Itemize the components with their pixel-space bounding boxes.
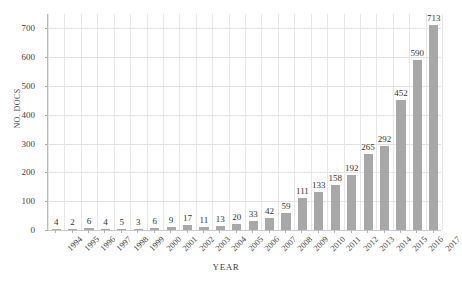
bar[interactable] [380, 146, 389, 230]
bar-group[interactable]: 111 [294, 14, 310, 230]
bar-group[interactable]: 590 [409, 14, 425, 230]
plot-area: 4264536917111320334259111133158192265292… [47, 14, 441, 230]
bar[interactable] [134, 229, 143, 230]
x-axis-tick-mark [384, 230, 385, 233]
x-axis-tick-label: 2014 [394, 234, 413, 253]
bar-group[interactable]: 713 [426, 14, 442, 230]
bar-group[interactable]: 292 [376, 14, 392, 230]
x-axis-tick-mark [72, 230, 73, 233]
bar-group[interactable]: 5 [114, 14, 130, 230]
x-axis-tick-label: 2017 [443, 234, 462, 253]
bar[interactable] [413, 60, 422, 230]
bar-value-label: 9 [169, 216, 174, 225]
x-axis-tick-mark [88, 230, 89, 233]
x-axis-tick-mark [351, 230, 352, 233]
x-axis-tick-mark [416, 230, 417, 233]
x-axis-tick-mark [252, 230, 253, 233]
bar-value-label: 59 [282, 202, 291, 211]
x-axis-tick-mark [433, 230, 434, 233]
x-axis-tick-label: 1994 [65, 234, 84, 253]
bar[interactable] [364, 154, 373, 230]
x-axis-tick-label: 2002 [197, 234, 216, 253]
x-axis-tick-mark [400, 230, 401, 233]
bar-group[interactable]: 192 [344, 14, 360, 230]
bar[interactable] [84, 228, 93, 230]
bar-value-label: 590 [411, 49, 425, 58]
bar[interactable] [249, 221, 258, 231]
bar-value-label: 292 [378, 135, 392, 144]
bar-value-label: 192 [345, 164, 359, 173]
bar-group[interactable]: 20 [229, 14, 245, 230]
bar-value-label: 133 [312, 181, 326, 190]
x-axis-tick-label: 1999 [147, 234, 166, 253]
bar-value-label: 13 [216, 215, 225, 224]
x-axis-tick-label: 2008 [295, 234, 314, 253]
x-axis-tick-mark [104, 230, 105, 233]
x-axis-tick-mark [154, 230, 155, 233]
bar-value-label: 4 [103, 218, 108, 227]
bar[interactable] [347, 175, 356, 230]
bar-value-label: 111 [296, 187, 309, 196]
bar-value-label: 6 [152, 217, 157, 226]
bar-group[interactable]: 265 [360, 14, 376, 230]
bar-group[interactable]: 133 [311, 14, 327, 230]
bars-layer: 4264536917111320334259111133158192265292… [48, 14, 441, 230]
x-axis-tick-label: 2001 [180, 234, 199, 253]
bar-group[interactable]: 6 [147, 14, 163, 230]
bar[interactable] [150, 228, 159, 230]
bar-value-label: 33 [249, 210, 258, 219]
bar-value-label: 20 [232, 213, 241, 222]
x-axis-tick-mark [318, 230, 319, 233]
x-axis-tick-label: 2000 [164, 234, 183, 253]
bar[interactable] [52, 229, 61, 230]
bar-group[interactable]: 4 [48, 14, 64, 230]
y-axis-tick-label: 200 [22, 167, 36, 177]
x-axis-tick-label: 2007 [279, 234, 298, 253]
bar-group[interactable]: 17 [179, 14, 195, 230]
bar-group[interactable]: 2 [64, 14, 80, 230]
bar[interactable] [183, 225, 192, 230]
bar[interactable] [101, 229, 110, 230]
x-axis-tick-mark [219, 230, 220, 233]
bar[interactable] [199, 227, 208, 230]
x-axis-tick-mark [334, 230, 335, 233]
x-axis-tick-label: 2006 [262, 234, 281, 253]
x-axis-tick-label: 1995 [82, 234, 101, 253]
bar-group[interactable]: 9 [163, 14, 179, 230]
x-axis-tick-label: 1996 [98, 234, 117, 253]
bar[interactable] [281, 213, 290, 230]
bar-value-label: 42 [265, 207, 274, 216]
bar-group[interactable]: 59 [278, 14, 294, 230]
bar[interactable] [396, 100, 405, 230]
bar[interactable] [429, 25, 438, 230]
bar-group[interactable]: 4 [97, 14, 113, 230]
x-axis-tick-label: 2012 [361, 234, 380, 253]
horizontal-gridline [48, 230, 441, 231]
bar-value-label: 5 [120, 218, 125, 227]
bar[interactable] [298, 198, 307, 230]
bar-group[interactable]: 11 [196, 14, 212, 230]
x-axis-tick-label: 2005 [246, 234, 265, 253]
bar-group[interactable]: 158 [327, 14, 343, 230]
bar[interactable] [232, 224, 241, 230]
y-axis-tick-label: 600 [22, 52, 36, 62]
x-axis-tick-label: 2004 [229, 234, 248, 253]
bar-value-label: 17 [183, 214, 192, 223]
bar-group[interactable]: 3 [130, 14, 146, 230]
x-axis-tick-mark [121, 230, 122, 233]
x-axis-tick-mark [301, 230, 302, 233]
bar-group[interactable]: 13 [212, 14, 228, 230]
bar-group[interactable]: 42 [261, 14, 277, 230]
bar[interactable] [331, 185, 340, 231]
y-axis-tick-mark [45, 230, 48, 231]
x-axis-tick-mark [203, 230, 204, 233]
bar-group[interactable]: 6 [81, 14, 97, 230]
bar-group[interactable]: 33 [245, 14, 261, 230]
x-axis-tick-labels: 1994199519961997199819992000200120022003… [47, 232, 441, 262]
bar[interactable] [265, 218, 274, 230]
bar[interactable] [314, 192, 323, 230]
x-axis-tick-label: 2010 [328, 234, 347, 253]
x-axis-tick-label: 1998 [131, 234, 150, 253]
vertical-gridline [442, 14, 443, 230]
bar-group[interactable]: 452 [393, 14, 409, 230]
